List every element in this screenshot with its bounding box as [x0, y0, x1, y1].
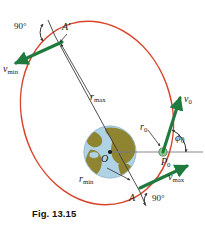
label-r-min: rmin — [79, 174, 93, 184]
apogee-right-angle — [40, 20, 55, 41]
label-center-point: O — [101, 154, 108, 164]
label-p-zero: P0 — [161, 157, 171, 167]
label-perigee-point: A — [129, 193, 135, 203]
perigee-point-text: A — [129, 192, 135, 203]
figure-caption: Fig. 13.15 — [32, 208, 76, 219]
center-point-text: O — [101, 153, 108, 164]
label-phi-zero: ϕ0 — [175, 132, 184, 143]
apogee-point-text: A′ — [62, 21, 70, 32]
phi-zero-base: ϕ — [175, 131, 181, 143]
r-min-sub: min — [83, 178, 94, 185]
r-zero-leader — [148, 130, 160, 146]
v-zero-sub: 0 — [188, 98, 191, 105]
apogee-point-leader — [60, 34, 67, 42]
r-max-leader — [61, 44, 92, 98]
v-min-sub: min — [7, 68, 18, 75]
p-zero-sub: 0 — [167, 161, 170, 168]
r-zero-sub: 0 — [144, 126, 147, 133]
figure-container: 90° A′ vmin rmax O rmin r0 v0 ϕ0 P0 vmax… — [0, 0, 205, 228]
label-r-zero: r0 — [140, 122, 147, 132]
label-r-max: rmax — [90, 92, 106, 102]
v-max-sub: max — [172, 176, 184, 183]
label-v-zero: v0 — [184, 94, 192, 104]
focus-point-marker — [108, 150, 112, 154]
label-angle-perigee: 90° — [152, 194, 165, 203]
label-v-min: vmin — [3, 64, 18, 74]
label-v-max: vmax — [168, 172, 184, 182]
perigee-right-angle — [140, 192, 147, 206]
phi-zero-sub: 0 — [181, 136, 185, 145]
r-max-sub: max — [94, 96, 106, 103]
orbit-diagram — [0, 0, 205, 228]
label-angle-apogee: 90° — [14, 22, 27, 31]
label-apogee-point: A′ — [62, 22, 70, 32]
